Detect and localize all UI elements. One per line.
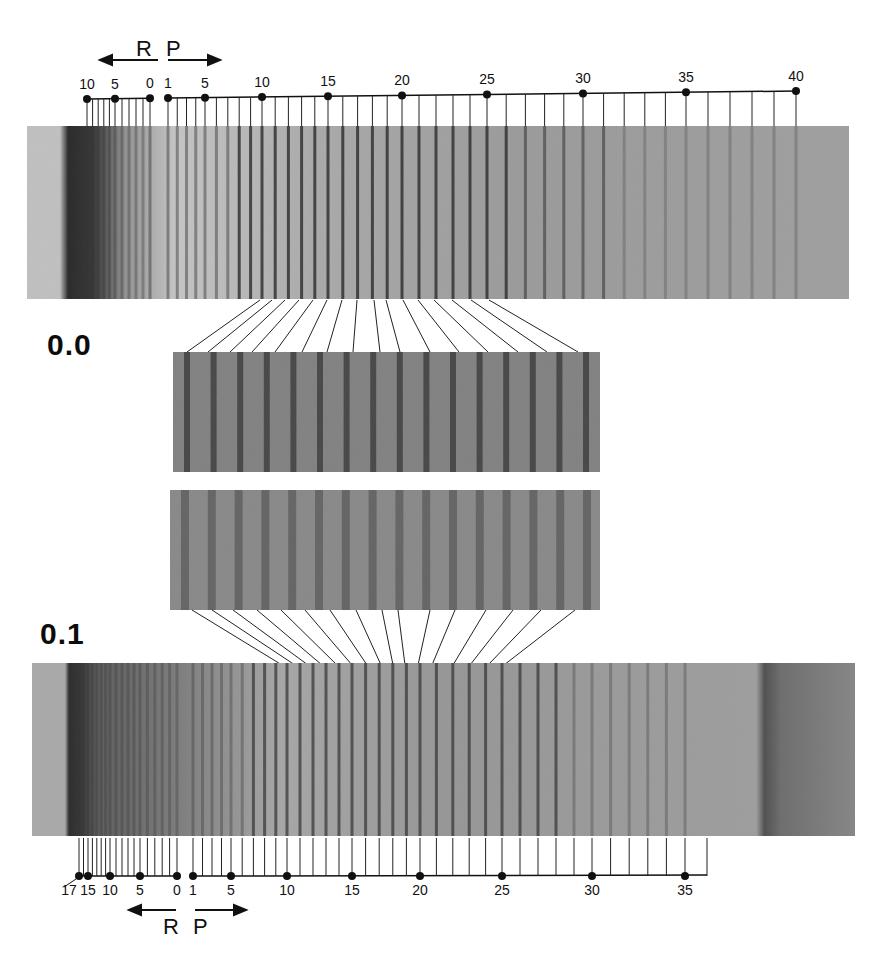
bottom-p-branch-label: P — [193, 914, 208, 940]
svg-text:20: 20 — [412, 882, 428, 898]
svg-text:0: 0 — [146, 75, 154, 91]
top-spectrum-image — [27, 126, 849, 299]
svg-text:25: 25 — [479, 71, 495, 87]
svg-text:40: 40 — [788, 68, 804, 84]
svg-text:30: 30 — [584, 882, 600, 898]
top-p-branch-label: P — [166, 36, 181, 62]
svg-text:35: 35 — [677, 882, 693, 898]
right-arrow-icon — [234, 905, 246, 915]
panel-label-0-1: 0.1 — [40, 617, 85, 651]
svg-text:10: 10 — [279, 882, 295, 898]
svg-text:5: 5 — [136, 882, 144, 898]
svg-text:17: 17 — [61, 882, 77, 898]
svg-text:10: 10 — [254, 74, 270, 90]
svg-text:30: 30 — [575, 70, 591, 86]
bottom-spectrum-image — [32, 663, 855, 836]
svg-text:5: 5 — [201, 75, 209, 91]
svg-text:15: 15 — [320, 73, 336, 89]
bottom-ruler: 1715105015101520253035 — [61, 838, 707, 898]
top-ruler: 10501510152025303540 — [79, 68, 804, 128]
left-arrow-icon — [100, 55, 112, 65]
svg-text:15: 15 — [344, 882, 360, 898]
right-arrow-icon — [208, 55, 220, 65]
svg-text:5: 5 — [227, 882, 235, 898]
svg-text:1: 1 — [189, 882, 197, 898]
top-r-branch-label: R — [136, 36, 152, 62]
top-branch-arrows — [100, 55, 220, 65]
svg-text:20: 20 — [394, 72, 410, 88]
svg-text:0: 0 — [173, 882, 181, 898]
inset-upper-image — [173, 352, 600, 472]
bottom-connector-lines — [192, 610, 575, 665]
svg-text:10: 10 — [79, 76, 95, 92]
top-connector-lines — [187, 300, 578, 352]
panel-label-0-0: 0.0 — [47, 328, 92, 362]
svg-text:15: 15 — [80, 882, 96, 898]
bottom-r-branch-label: R — [163, 914, 179, 940]
svg-text:5: 5 — [111, 76, 119, 92]
svg-text:25: 25 — [494, 882, 510, 898]
svg-text:10: 10 — [102, 882, 118, 898]
svg-text:35: 35 — [678, 69, 694, 85]
bottom-branch-arrows — [129, 905, 246, 915]
spectra-figure: 10501510152025303540 1715105015101520253… — [0, 0, 884, 957]
left-arrow-icon — [129, 905, 141, 915]
inset-lower-image — [170, 490, 600, 610]
svg-text:1: 1 — [164, 75, 172, 91]
